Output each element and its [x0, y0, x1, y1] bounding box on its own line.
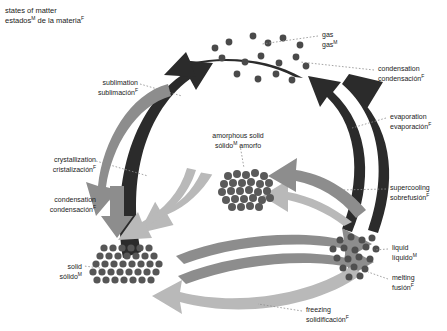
transition-label-crystallization-en: crystallization	[6, 155, 96, 165]
transition-label-melting-es: fusiónF	[392, 283, 415, 293]
state-label-gas: gas gasM	[322, 30, 337, 49]
state-label-liquid-es: líquidoM	[392, 253, 417, 263]
state-label-gas-es: gasM	[322, 40, 337, 50]
page-title-es: estadosM de la materiaF	[5, 16, 84, 26]
transition-label-sublimation: sublimation sublimaciónF	[28, 78, 138, 97]
transition-label-freezing: freezing solidificaciónF	[306, 305, 349, 324]
arrow-condensation-gas-solid	[164, 52, 303, 78]
transition-label-condensation-left-en: condensation	[6, 195, 96, 205]
transition-label-condensation-gas-to-solid: condensation condensaciónF	[378, 64, 424, 83]
transition-label-condensation-left: condensation condensaciónF	[6, 195, 96, 214]
transition-label-evaporation-es: evaporaciónF	[390, 122, 431, 132]
transition-label-condensation-left-es: condensaciónF	[6, 205, 96, 215]
transition-label-sublimation-es: sublimaciónF	[28, 88, 138, 98]
transition-label-freezing-en: freezing	[306, 305, 349, 315]
transition-label-evaporation: evaporation evaporaciónF	[390, 112, 431, 131]
transition-label-crystallization: crystallization cristalizaciónF	[6, 155, 96, 174]
state-label-amorphous-solid: amorphous solid sólidoM amorfo	[190, 131, 286, 150]
transition-label-crystallization-es: cristalizaciónF	[6, 165, 96, 175]
transition-label-evaporation-en: evaporation	[390, 112, 431, 122]
page-title: states of matter estadosM de la materiaF	[5, 6, 84, 26]
state-label-solid-es: sólidoM	[20, 272, 82, 282]
transition-label-supercooling: supercooling sobrefusiónF	[390, 183, 430, 202]
state-label-liquid: liquid líquidoM	[392, 243, 417, 262]
state-label-solid-en: solid	[20, 262, 82, 272]
states-of-matter-diagram: states of matter estadosM de la materiaF…	[0, 0, 447, 331]
amorphous-solid-molecules	[218, 169, 274, 211]
transition-label-sublimation-en: sublimation	[28, 78, 138, 88]
transition-label-supercooling-es: sobrefusiónF	[390, 193, 430, 203]
page-title-en: states of matter	[5, 6, 84, 16]
state-label-solid: solid sólidoM	[20, 262, 82, 281]
state-label-amorphous-solid-es: sólidoM amorfo	[190, 141, 286, 151]
transition-label-condensation-gas-to-solid-en: condensation	[378, 64, 424, 74]
transition-label-supercooling-en: supercooling	[390, 183, 430, 193]
state-label-amorphous-solid-en: amorphous solid	[190, 131, 286, 141]
transition-label-melting: melting fusiónF	[392, 273, 415, 292]
transition-label-condensation-gas-to-solid-es: condensaciónF	[378, 74, 424, 84]
transition-label-freezing-es: solidificaciónF	[306, 315, 349, 325]
